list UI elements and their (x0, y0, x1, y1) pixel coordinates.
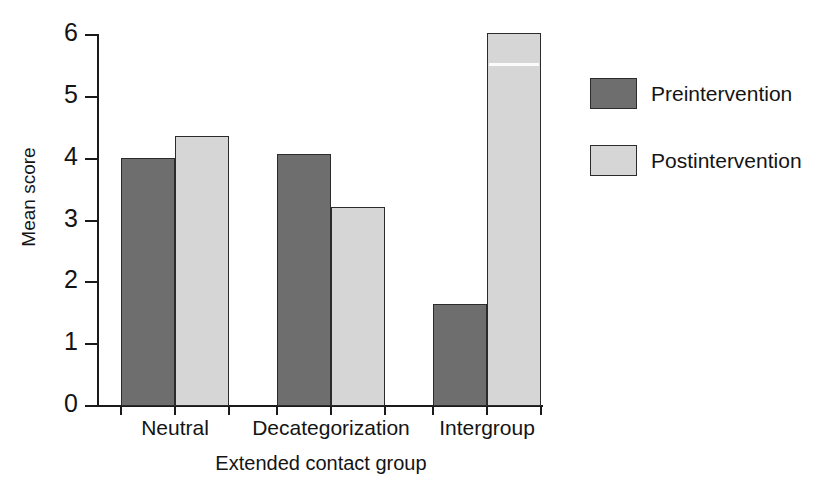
bar-neutral-preintervention (121, 158, 175, 406)
chart-legend: Preintervention Postintervention (590, 78, 802, 212)
x-tick (384, 406, 386, 415)
y-tick-label-5: 5 (40, 82, 78, 107)
legend-swatch-postintervention (590, 145, 637, 176)
y-tick-label-2: 2 (40, 267, 78, 292)
bar-decategorization-preintervention (277, 154, 331, 406)
y-tick-label-0: 0 (40, 391, 78, 416)
y-tick-label-4: 4 (40, 144, 78, 169)
y-axis-title: Mean score (18, 127, 40, 267)
bar-intergroup-postintervention (487, 33, 541, 406)
y-tick-6 (85, 34, 98, 36)
x-tick (228, 406, 230, 415)
x-axis-title: Extended contact group (98, 452, 544, 475)
bar-neutral-postintervention (175, 136, 229, 406)
legend-label-preintervention: Preintervention (651, 82, 792, 106)
x-tick (486, 406, 488, 415)
y-tick-5 (85, 96, 98, 98)
y-tick-3 (85, 220, 98, 222)
y-tick-label-1: 1 (40, 329, 78, 354)
y-tick-label-6: 6 (40, 20, 78, 45)
x-tick (330, 406, 332, 415)
bar-decategorization-postintervention (331, 207, 385, 406)
y-tick-4 (85, 158, 98, 160)
legend-item-preintervention: Preintervention (590, 78, 802, 109)
legend-label-postintervention: Postintervention (651, 149, 802, 173)
x-tick (432, 406, 434, 415)
x-tick (540, 406, 542, 415)
x-tick (276, 406, 278, 415)
y-tick-1 (85, 343, 98, 345)
bar-chart-figure: 0123456 Mean score NeutralDecategorizati… (0, 0, 814, 492)
y-tick-label-3: 3 (40, 206, 78, 231)
bar-intergroup-preintervention (433, 304, 487, 406)
y-tick-2 (85, 281, 98, 283)
x-tick (120, 406, 122, 415)
x-tick (174, 406, 176, 415)
scan-artifact-line (489, 63, 539, 66)
legend-item-postintervention: Postintervention (590, 145, 802, 176)
x-category-label-intergroup: Intergroup (357, 416, 617, 440)
legend-swatch-preintervention (590, 78, 637, 109)
